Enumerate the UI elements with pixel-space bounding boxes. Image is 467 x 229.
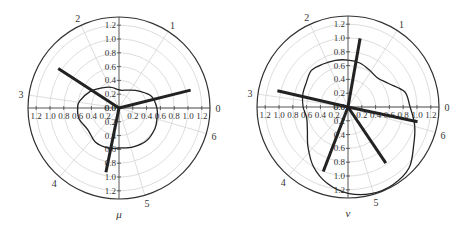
svg-text:1.2: 1.2	[31, 111, 42, 121]
svg-text:3: 3	[247, 88, 252, 99]
svg-text:0.2: 0.2	[105, 89, 116, 99]
variable-label: μ	[115, 208, 122, 220]
svg-text:1.2: 1.2	[334, 185, 345, 195]
svg-text:1.2: 1.2	[425, 110, 436, 120]
svg-text:1.2: 1.2	[105, 20, 116, 30]
svg-text:0.4: 0.4	[105, 75, 117, 85]
svg-text:1.0: 1.0	[105, 34, 117, 44]
svg-text:0.2: 0.2	[127, 111, 138, 121]
svg-text:3: 3	[18, 89, 23, 100]
svg-text:0: 0	[216, 103, 221, 114]
svg-text:0.2: 0.2	[100, 111, 111, 121]
svg-text:0.8: 0.8	[105, 48, 117, 58]
svg-text:1: 1	[399, 19, 404, 30]
svg-text:0.2: 0.2	[329, 110, 340, 120]
svg-text:1: 1	[170, 20, 175, 31]
svg-text:6: 6	[212, 131, 217, 142]
svg-text:6: 6	[441, 130, 446, 141]
polar-chart-figure: 0.00.00.20.20.20.20.40.40.40.40.60.60.60…	[0, 0, 467, 229]
svg-text:5: 5	[145, 198, 150, 209]
svg-text:0.6: 0.6	[105, 62, 117, 72]
svg-text:1.0: 1.0	[334, 33, 346, 43]
ray-line	[348, 38, 360, 107]
svg-text:0.8: 0.8	[287, 110, 299, 120]
svg-text:5: 5	[374, 197, 379, 208]
svg-text:0.4: 0.4	[315, 110, 327, 120]
polar-chart-nu: 0.00.00.20.20.20.20.40.40.40.40.60.60.60…	[247, 12, 449, 219]
svg-text:0.6: 0.6	[334, 61, 346, 71]
svg-text:1.0: 1.0	[105, 172, 117, 182]
svg-text:1.2: 1.2	[105, 186, 116, 196]
boundary-curve	[302, 60, 414, 195]
svg-text:0.6: 0.6	[334, 143, 346, 153]
svg-text:2: 2	[75, 13, 80, 24]
svg-text:1.2: 1.2	[196, 111, 207, 121]
svg-text:0.4: 0.4	[86, 111, 98, 121]
svg-text:1.2: 1.2	[334, 19, 345, 29]
svg-text:0.8: 0.8	[58, 111, 70, 121]
svg-text:2: 2	[304, 12, 309, 23]
variable-label: ν	[346, 207, 351, 219]
svg-text:1.2: 1.2	[260, 110, 271, 120]
svg-text:0.8: 0.8	[169, 111, 181, 121]
svg-text:1.0: 1.0	[182, 111, 194, 121]
svg-text:0.2: 0.2	[334, 88, 345, 98]
svg-text:1.0: 1.0	[273, 110, 285, 120]
svg-text:0.4: 0.4	[141, 111, 153, 121]
svg-text:1.0: 1.0	[44, 111, 56, 121]
svg-text:0: 0	[445, 102, 450, 113]
svg-text:0.8: 0.8	[334, 157, 346, 167]
svg-text:4: 4	[281, 177, 286, 188]
svg-text:1.0: 1.0	[334, 171, 346, 181]
polar-chart-mu: 0.00.00.20.20.20.20.40.40.40.40.60.60.60…	[18, 13, 220, 220]
svg-text:4: 4	[52, 178, 57, 189]
svg-text:0.4: 0.4	[334, 74, 346, 84]
svg-text:0.8: 0.8	[334, 47, 346, 57]
